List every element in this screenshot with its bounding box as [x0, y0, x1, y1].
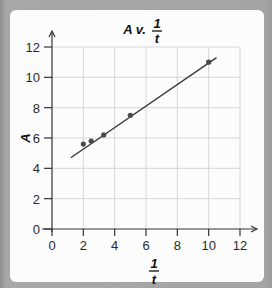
x-axis-label-numerator: 1 — [150, 256, 157, 271]
y-tick-label: 6 — [33, 131, 40, 146]
data-point — [89, 138, 94, 143]
y-tick-label: 4 — [33, 161, 40, 176]
x-tick-label: 6 — [142, 238, 149, 253]
chart-title: A v. — [122, 22, 146, 37]
x-tick-label: 8 — [174, 238, 181, 253]
data-point — [81, 141, 86, 146]
data-point — [206, 60, 211, 65]
title-fraction-numerator: 1 — [153, 16, 160, 31]
y-tick-label: 10 — [26, 70, 40, 85]
x-tick-label: 4 — [111, 238, 118, 253]
y-tick-label: 12 — [26, 40, 40, 55]
y-tick-label: 0 — [33, 222, 40, 237]
y-axis-label: A — [18, 133, 33, 143]
x-tick-label: 10 — [201, 238, 215, 253]
scatter-chart: 024681012024681012A v.1t1tA — [0, 0, 272, 288]
y-tick-label: 8 — [33, 101, 40, 116]
x-tick-label: 2 — [80, 238, 87, 253]
data-point — [101, 132, 106, 137]
y-tick-label: 2 — [33, 192, 40, 207]
x-tick-label: 12 — [233, 238, 247, 253]
x-axis-label-denominator: t — [152, 272, 157, 287]
x-tick-label: 0 — [48, 238, 55, 253]
data-point — [128, 113, 133, 118]
title-fraction-denominator: t — [155, 31, 160, 46]
